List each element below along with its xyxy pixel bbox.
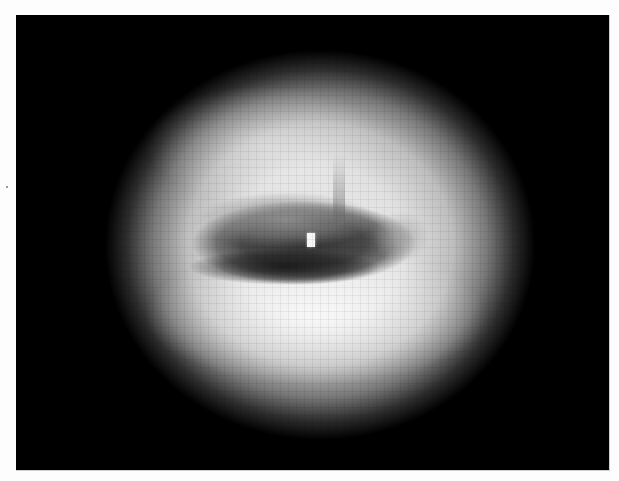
image-frame [16,15,610,471]
pixel-grid-overlay [16,15,609,470]
page [0,0,619,481]
stray-dot [6,186,8,188]
